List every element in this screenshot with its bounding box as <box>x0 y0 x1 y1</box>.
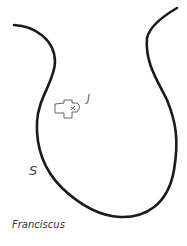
label-j: J <box>87 93 90 104</box>
diagram-canvas <box>0 0 187 246</box>
label-s: S <box>29 163 37 178</box>
outline-curve <box>14 8 177 217</box>
cross-shaped-church-icon <box>55 100 80 118</box>
caption-name: Franciscus <box>12 219 65 230</box>
